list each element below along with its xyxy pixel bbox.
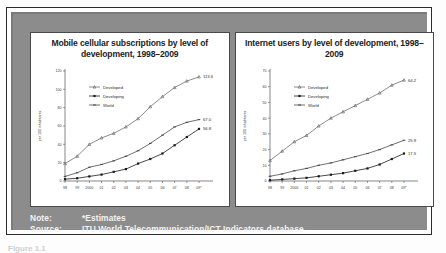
note-label: Note: bbox=[30, 213, 82, 224]
plot-area-mobile-cellular: 020406080100120per 100 inhabitants989920… bbox=[31, 63, 229, 206]
svg-text:70: 70 bbox=[262, 69, 266, 73]
svg-text:08: 08 bbox=[389, 186, 393, 190]
plot-area-internet-users: 010203040506070per 100 inhabitants989920… bbox=[236, 63, 434, 206]
svg-text:05: 05 bbox=[148, 186, 152, 190]
svg-text:64.2: 64.2 bbox=[408, 78, 417, 83]
line-chart-mobile-cellular: 020406080100120per 100 inhabitants989920… bbox=[31, 63, 230, 207]
svg-text:02: 02 bbox=[112, 186, 116, 190]
svg-text:98: 98 bbox=[63, 186, 67, 190]
source-label: Source: bbox=[30, 224, 82, 235]
svg-text:per 100 inhabitants: per 100 inhabitants bbox=[243, 111, 247, 142]
svg-text:04: 04 bbox=[341, 186, 345, 190]
svg-text:98: 98 bbox=[268, 186, 272, 190]
svg-text:113.6: 113.6 bbox=[203, 74, 214, 79]
svg-text:07: 07 bbox=[377, 186, 381, 190]
svg-text:99: 99 bbox=[280, 186, 284, 190]
svg-text:0: 0 bbox=[264, 179, 266, 183]
svg-text:07: 07 bbox=[173, 186, 177, 190]
svg-text:67.0: 67.0 bbox=[203, 117, 212, 122]
svg-text:17.5: 17.5 bbox=[408, 151, 417, 156]
svg-text:60: 60 bbox=[262, 85, 266, 89]
svg-text:09*: 09* bbox=[401, 186, 407, 190]
note-row: Note: *Estimates bbox=[30, 213, 434, 224]
svg-text:120: 120 bbox=[56, 69, 62, 73]
svg-text:80: 80 bbox=[58, 106, 62, 110]
source-value: ITU World Telecommunication/ICT Indicato… bbox=[82, 224, 434, 235]
scanned-page: Mobile cellular subscriptions by level o… bbox=[0, 0, 446, 253]
svg-text:99: 99 bbox=[75, 186, 79, 190]
svg-text:03: 03 bbox=[124, 186, 128, 190]
chart-panel-internet-users: Internet users by level of development, … bbox=[235, 32, 435, 207]
chart-panels: Mobile cellular subscriptions by level o… bbox=[30, 32, 434, 207]
svg-text:06: 06 bbox=[365, 186, 369, 190]
svg-text:Developing: Developing bbox=[308, 94, 330, 99]
svg-text:04: 04 bbox=[136, 186, 140, 190]
svg-text:Developed: Developed bbox=[308, 85, 329, 90]
svg-text:World: World bbox=[308, 103, 320, 108]
svg-text:25.9: 25.9 bbox=[408, 138, 417, 143]
svg-text:56.8: 56.8 bbox=[203, 126, 212, 131]
svg-text:40: 40 bbox=[58, 143, 62, 147]
svg-text:03: 03 bbox=[328, 186, 332, 190]
svg-text:06: 06 bbox=[160, 186, 164, 190]
chart-title-mobile-cellular: Mobile cellular subscriptions by level o… bbox=[35, 38, 225, 59]
svg-text:09*: 09* bbox=[196, 186, 202, 190]
svg-text:20: 20 bbox=[58, 161, 62, 165]
source-row: Source: ITU World Telecommunication/ICT … bbox=[30, 224, 434, 235]
svg-text:10: 10 bbox=[262, 164, 266, 168]
svg-text:100: 100 bbox=[56, 88, 62, 92]
svg-text:50: 50 bbox=[262, 101, 266, 105]
svg-text:60: 60 bbox=[58, 124, 62, 128]
page-caption-clipped: Figure 1.1 bbox=[8, 244, 308, 253]
svg-text:World: World bbox=[103, 103, 115, 108]
svg-text:Developing: Developing bbox=[103, 94, 125, 99]
svg-text:per 100 inhabitants: per 100 inhabitants bbox=[38, 111, 42, 142]
svg-text:2000: 2000 bbox=[85, 186, 93, 190]
svg-text:40: 40 bbox=[262, 117, 266, 121]
line-chart-internet-users: 010203040506070per 100 inhabitants989920… bbox=[236, 63, 435, 207]
svg-text:0: 0 bbox=[60, 179, 62, 183]
svg-text:02: 02 bbox=[316, 186, 320, 190]
svg-text:08: 08 bbox=[185, 186, 189, 190]
svg-text:Developed: Developed bbox=[103, 85, 124, 90]
figure-grey-mat: Mobile cellular subscriptions by level o… bbox=[11, 12, 427, 230]
chart-title-internet-users: Internet users by level of development, … bbox=[240, 38, 430, 59]
svg-text:20: 20 bbox=[262, 148, 266, 152]
note-value: *Estimates bbox=[82, 213, 434, 224]
svg-text:2000: 2000 bbox=[290, 186, 298, 190]
svg-text:05: 05 bbox=[353, 186, 357, 190]
svg-text:30: 30 bbox=[262, 132, 266, 136]
chart-panel-mobile-cellular: Mobile cellular subscriptions by level o… bbox=[30, 32, 230, 207]
svg-text:01: 01 bbox=[304, 186, 308, 190]
svg-text:01: 01 bbox=[100, 186, 104, 190]
figure-notes: Note: *Estimates Source: ITU World Telec… bbox=[30, 213, 434, 235]
